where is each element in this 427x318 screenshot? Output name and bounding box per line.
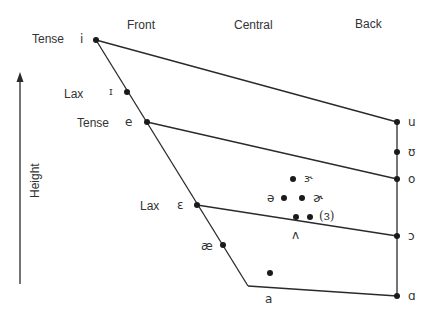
- height-axis-label: Height: [28, 163, 42, 198]
- column-central: Central: [234, 19, 273, 31]
- vowel-er: ɝ: [304, 173, 313, 185]
- column-front: Front: [127, 19, 155, 31]
- dot-U: [394, 149, 400, 155]
- dot-schwar: [299, 195, 305, 201]
- vowel-U: ʊ: [408, 146, 415, 158]
- dot-er: [290, 176, 296, 182]
- dot-e: [144, 119, 150, 125]
- vowel-paren-er: (ɜ): [319, 210, 334, 222]
- vowel-i: i: [80, 33, 83, 45]
- vowel-ae: æ: [201, 240, 213, 252]
- dot-paren-er: [307, 214, 313, 220]
- label-tense-i: Tense: [32, 33, 64, 45]
- label-lax-I: Lax: [64, 88, 83, 100]
- dot-ae: [220, 242, 226, 248]
- dot-open-o: [394, 233, 400, 239]
- label-tense-e: Tense: [77, 117, 109, 129]
- mid-high-line: [147, 122, 397, 179]
- dot-o: [394, 176, 400, 182]
- label-lax-eps: Lax: [140, 200, 159, 212]
- vowel-schwa: ə: [267, 192, 274, 204]
- vowel-u: u: [408, 116, 416, 128]
- front-edge: [96, 40, 248, 286]
- vowel-open-o: ɔ: [408, 230, 415, 242]
- dot-schwa: [281, 195, 287, 201]
- dot-i: [93, 37, 99, 43]
- column-back: Back: [355, 18, 382, 30]
- vowel-a: a: [265, 293, 272, 305]
- vowel-alpha: ɑ: [408, 290, 416, 302]
- top-edge: [96, 40, 397, 122]
- vowel-I: ɪ: [109, 86, 113, 98]
- vowel-chart: [0, 0, 427, 318]
- dot-I: [124, 89, 130, 95]
- dot-eps: [194, 202, 200, 208]
- dot-wedge: [293, 214, 299, 220]
- vowel-wedge: ʌ: [292, 229, 299, 241]
- dot-alpha: [394, 293, 400, 299]
- vowel-eps: ɛ: [177, 199, 184, 211]
- vowel-e: e: [125, 116, 132, 128]
- height-arrow-icon: [17, 72, 24, 82]
- vowel-o: o: [408, 173, 415, 185]
- dot-u: [394, 119, 400, 125]
- vowel-schwar: ɚ: [313, 192, 323, 204]
- dot-a: [267, 270, 273, 276]
